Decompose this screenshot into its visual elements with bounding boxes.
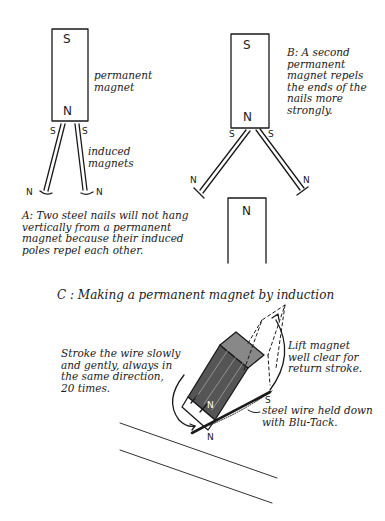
panel-a-magnet-pole-s: S [63, 32, 71, 46]
panel-a-magnet-pole-n: N [63, 104, 72, 118]
panel-b-nail-left-pole-s: S [229, 129, 235, 139]
bench-edge-upper [120, 423, 277, 478]
panel-c-wire-pole-s: S [265, 395, 271, 405]
bench-edge-lower [120, 450, 272, 503]
panel-a-nail-left-pole-n: N [26, 187, 33, 197]
panel-a-nail-right-pole-n: N [96, 187, 103, 197]
panel-b-magnet-pole-s: S [243, 38, 251, 52]
panel-b-second-magnet-pole-n: N [242, 204, 251, 218]
panel-a-caption: A: Two steel nails will not hang vertica… [22, 210, 188, 256]
panel-c-magnet-pole-n: N [207, 400, 214, 410]
panel-b-nail-right-pole-s: S [268, 129, 274, 139]
panel-c-title: C : Making a permanent magnet by inducti… [57, 290, 334, 302]
panel-b-magnet-pole-n: N [243, 110, 252, 124]
panel-a-nail-left-pole-s: S [50, 126, 56, 136]
panel-c-lift-arrow [270, 320, 285, 390]
panel-c-wire-note: steel wire held down with Blu-Tack. [262, 405, 373, 428]
panel-c-lift-note: Lift magnet well clear for return stroke… [288, 340, 362, 375]
panel-a-nails-label: induced magnets [88, 146, 134, 169]
panel-b-nail-right [256, 129, 308, 195]
panel-b-caption: B: A second permanent magnet repels the … [287, 47, 367, 116]
panel-a-magnet-label: permanent magnet [94, 70, 152, 93]
panel-b-nail-left-pole-n: N [190, 175, 197, 185]
panel-c-instruction: Stroke the wire slowly and gently, alway… [61, 348, 180, 394]
panel-b-nail-right-pole-n: N [303, 175, 310, 185]
panel-c-wire-pole-n: N [207, 432, 214, 442]
panel-b-nail-left [194, 130, 250, 198]
panel-a-nail-right-pole-s: S [82, 126, 88, 136]
